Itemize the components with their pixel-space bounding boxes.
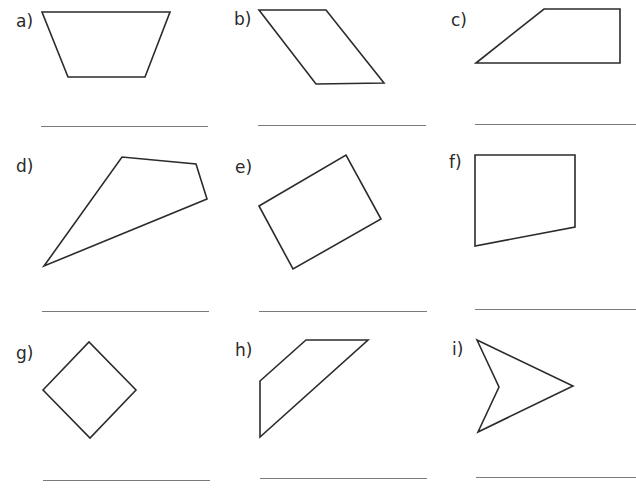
- answer-line-a[interactable]: [41, 126, 208, 127]
- shape-i-arrowhead: [477, 340, 573, 432]
- answer-line-g[interactable]: [43, 480, 210, 481]
- answer-line-e[interactable]: [259, 311, 427, 312]
- answer-line-c[interactable]: [475, 124, 636, 125]
- shape-h-trapezium: [260, 340, 368, 437]
- answer-line-f[interactable]: [475, 309, 636, 310]
- shape-e-rectangle: [259, 155, 381, 269]
- label-i: i): [452, 341, 463, 358]
- label-g: g): [16, 345, 33, 362]
- shape-c-right-trapezium: [476, 9, 620, 63]
- answer-line-d[interactable]: [42, 311, 209, 312]
- label-e: e): [235, 159, 252, 176]
- shape-b-parallelogram: [259, 10, 384, 84]
- label-d: d): [16, 158, 33, 175]
- shape-g-square: [43, 342, 136, 438]
- answer-line-b[interactable]: [258, 125, 426, 126]
- shapes-canvas: [0, 0, 636, 490]
- label-f: f): [449, 154, 462, 171]
- answer-line-h[interactable]: [260, 478, 427, 479]
- shape-d-irregular-quadrilateral: [44, 157, 207, 266]
- label-a: a): [16, 13, 33, 30]
- label-c: c): [451, 12, 467, 29]
- answer-line-i[interactable]: [476, 477, 636, 478]
- label-b: b): [234, 11, 251, 28]
- shape-f-right-trapezium: [475, 155, 575, 246]
- label-h: h): [235, 342, 252, 359]
- shape-a-trapezium: [42, 12, 170, 77]
